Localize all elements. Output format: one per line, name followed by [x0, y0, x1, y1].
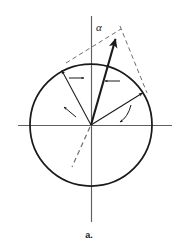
rotation-arrow-left-outer — [64, 107, 76, 117]
figure-container: α a. — [0, 0, 178, 244]
figure-drawing — [0, 0, 178, 244]
vector-group — [62, 39, 143, 125]
rotation-arrow-right-arc — [120, 105, 131, 122]
coordinate-axes — [18, 16, 172, 222]
angle-alpha-label: α — [96, 22, 102, 33]
left-vector — [62, 71, 91, 126]
dashed-alpha-right-leg — [120, 26, 147, 93]
figure-caption: a. — [0, 231, 178, 240]
dashed-vector-extension — [72, 127, 90, 167]
